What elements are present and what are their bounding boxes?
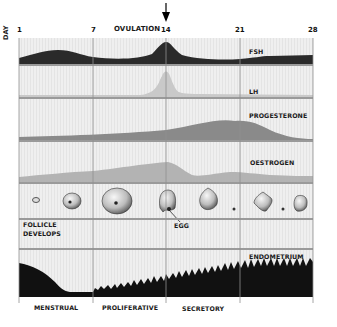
- day-tick-14: 14: [161, 27, 171, 34]
- phase-secretory: SECRETORY: [182, 306, 224, 312]
- oestrogen-label: OESTROGEN: [250, 160, 294, 166]
- fsh-label: FSH: [249, 49, 263, 55]
- day-tick-21: 21: [235, 27, 245, 34]
- egg-label: EGG: [174, 223, 189, 229]
- follicle-label-line2: DEVELOPS: [23, 231, 61, 237]
- phase-proliferative: PROLIFERATIVE: [102, 305, 158, 311]
- progesterone-label: PROGESTERONE: [249, 113, 307, 119]
- ovulation-label: OVULATION: [114, 26, 160, 33]
- day-tick-7: 7: [91, 27, 96, 34]
- lh-label: LH: [249, 89, 258, 95]
- follicle-label-line1: FOLLICLE: [23, 222, 57, 228]
- day-axis-label: DAY: [2, 25, 10, 40]
- phase-menstrual: MENSTRUAL: [34, 305, 78, 311]
- day-tick-28: 28: [308, 27, 318, 34]
- endometrium-label: ENDOMETRIUM: [249, 254, 304, 260]
- ovulation-arrow-icon: [162, 3, 170, 22]
- day-tick-1: 1: [17, 27, 22, 34]
